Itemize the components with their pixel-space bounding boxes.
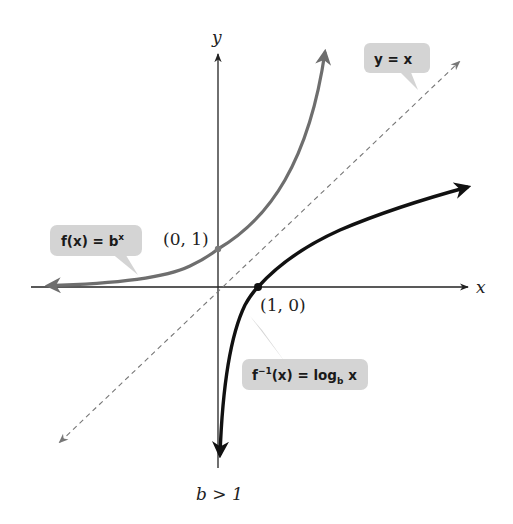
svg-text:f(x) = bx: f(x) = bx [61, 232, 124, 249]
svg-text:y = x: y = x [374, 51, 413, 67]
callout-exponential: f(x) = bx [50, 225, 142, 275]
point-1-0 [254, 283, 262, 291]
y-axis-label: y [211, 27, 222, 47]
callout-identity: y = x [364, 43, 430, 90]
point-0-1 [215, 246, 221, 252]
callout-logarithm: f−1(x) = logb x [242, 316, 368, 390]
x-axis-label: x [476, 277, 486, 297]
inverse-functions-graph: y x (0, 1) (1, 0) y = x f(x) = bx f−1(x)… [0, 0, 513, 524]
point-label-1-0: (1, 0) [260, 295, 306, 315]
base-condition: b > 1 [196, 484, 243, 504]
logarithm-curve [220, 187, 468, 455]
point-label-0-1: (0, 1) [163, 229, 209, 249]
